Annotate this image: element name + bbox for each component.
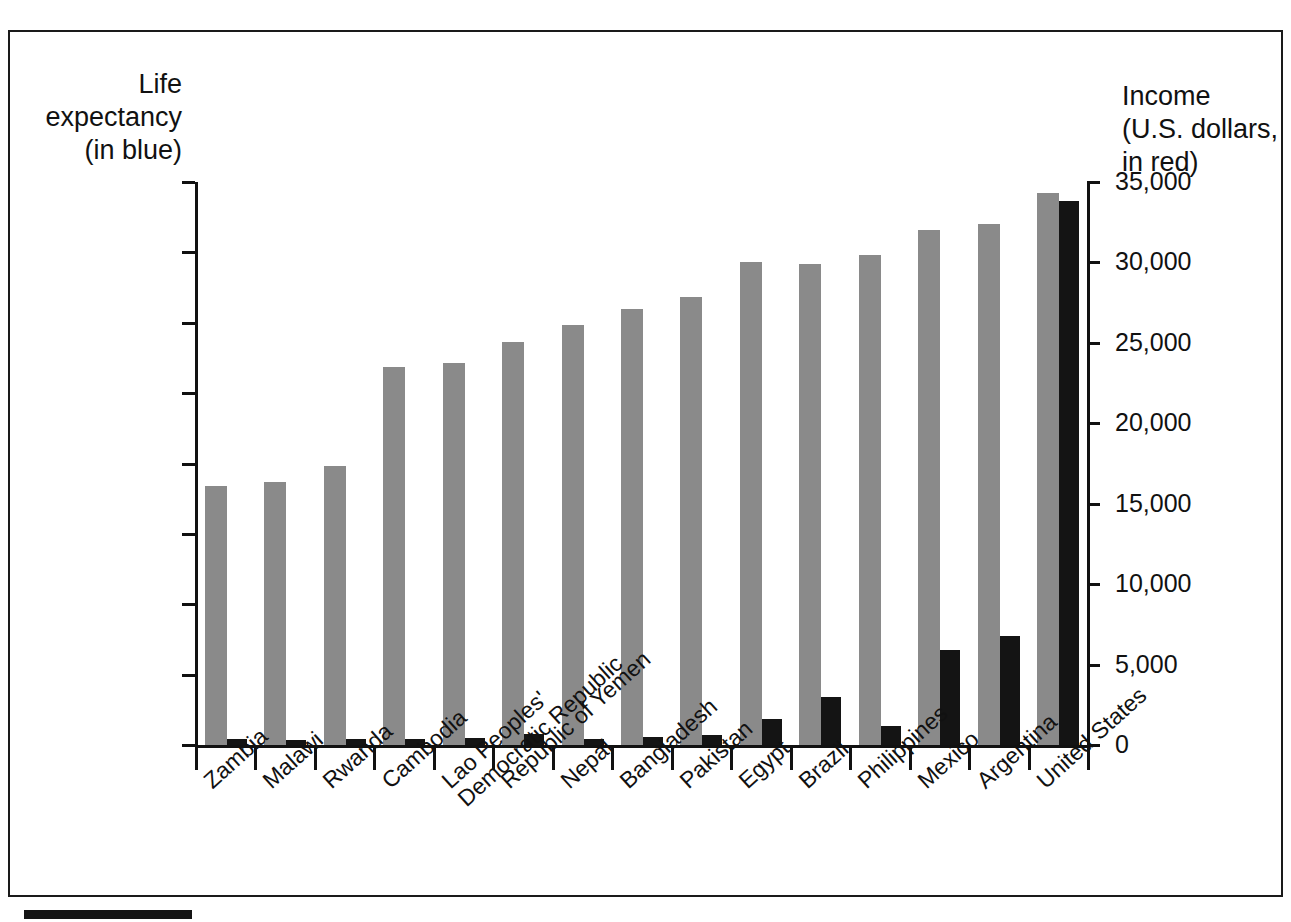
life-expectancy-bar (264, 482, 286, 745)
left-tick (182, 181, 195, 184)
life-expectancy-bar (383, 367, 405, 745)
left-tick (182, 674, 195, 677)
life-expectancy-bar (978, 224, 1000, 745)
right-tick (1087, 664, 1100, 667)
right-tick (1087, 422, 1100, 425)
left-axis-title: Life expectancy (in blue) (30, 68, 182, 167)
figure-frame: Life expectancy (in blue) Income (U.S. d… (8, 30, 1283, 897)
right-tick-label: 20,000 (1115, 410, 1191, 435)
life-expectancy-bar (680, 297, 702, 745)
left-tick (182, 251, 195, 254)
left-tick (182, 463, 195, 466)
income-bar (1000, 636, 1020, 745)
life-expectancy-bar (740, 262, 762, 745)
right-tick-label: 30,000 (1115, 249, 1191, 274)
income-bar (940, 650, 960, 745)
right-tick (1087, 181, 1100, 184)
right-tick-label: 35,000 (1115, 169, 1191, 194)
life-expectancy-bar (918, 230, 940, 745)
right-tick (1087, 503, 1100, 506)
right-tick (1087, 342, 1100, 345)
left-tick (182, 603, 195, 606)
right-tick-label: 0 (1115, 732, 1129, 757)
life-expectancy-bar (859, 255, 881, 745)
left-tick (182, 392, 195, 395)
right-tick-label: 25,000 (1115, 330, 1191, 355)
life-expectancy-bar (324, 466, 346, 745)
right-tick-label: 5,000 (1115, 652, 1178, 677)
left-tick (182, 533, 195, 536)
right-axis-title: Income (U.S. dollars, in red) (1122, 80, 1291, 179)
life-expectancy-bar (799, 264, 821, 745)
right-tick (1087, 261, 1100, 264)
left-tick (182, 744, 195, 747)
plot-area: 01020304050607080 05,00010,00015,00020,0… (195, 182, 1090, 745)
footer-rule (24, 910, 192, 919)
income-bar (1059, 201, 1079, 745)
life-expectancy-bar (1037, 193, 1059, 745)
left-axis-line (195, 182, 198, 748)
right-tick-label: 10,000 (1115, 571, 1191, 596)
life-expectancy-bar (205, 486, 227, 745)
left-tick (182, 322, 195, 325)
life-expectancy-bar (502, 342, 524, 745)
x-tick (195, 748, 198, 770)
right-tick (1087, 583, 1100, 586)
life-expectancy-bar (443, 363, 465, 745)
right-tick-label: 15,000 (1115, 491, 1191, 516)
